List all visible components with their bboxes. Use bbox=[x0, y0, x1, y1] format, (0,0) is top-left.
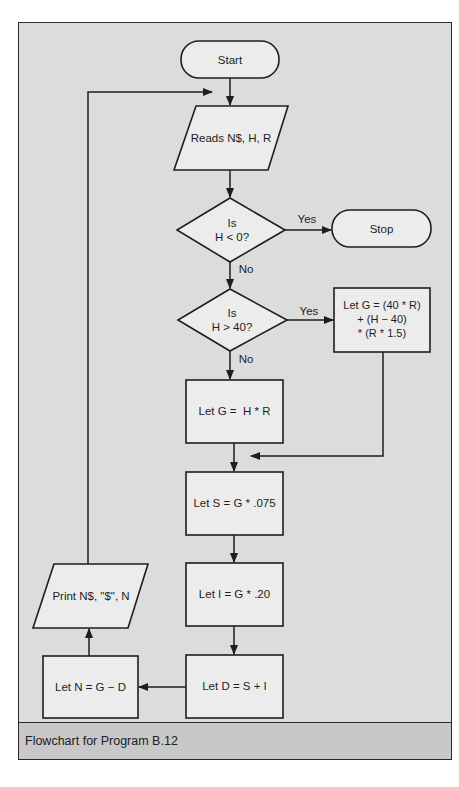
overtime-pay-label: Let G = (40 * R) + (H − 40) * (R * 1.5) bbox=[334, 298, 430, 340]
stop-label: Stop bbox=[332, 222, 431, 236]
flowchart-canvas bbox=[0, 0, 459, 787]
start-label: Start bbox=[181, 53, 279, 67]
read-input-label: Reads N$, H, R bbox=[174, 131, 288, 145]
calc-i-label: Let I = G * .20 bbox=[186, 587, 283, 601]
calc-n-label: Let N = G − D bbox=[43, 680, 138, 694]
decision-h-negative-label: Is H < 0? bbox=[180, 216, 284, 244]
calc-s-label: Let S = G * .075 bbox=[186, 496, 283, 510]
figure-caption: Flowchart for Program B.12 bbox=[25, 734, 178, 748]
regular-pay-label: Let G = H * R bbox=[186, 404, 283, 418]
calc-d-label: Let D = S + I bbox=[186, 679, 283, 693]
print-output-label: Print N$, "$", N bbox=[36, 589, 146, 603]
yes-label-2: Yes bbox=[294, 304, 324, 318]
no-label-1: No bbox=[235, 262, 257, 276]
caption-box: Flowchart for Program B.12 bbox=[18, 722, 452, 760]
no-label-2: No bbox=[235, 352, 257, 366]
decision-overtime-label: Is H > 40? bbox=[180, 306, 284, 334]
yes-label-1: Yes bbox=[292, 212, 322, 226]
